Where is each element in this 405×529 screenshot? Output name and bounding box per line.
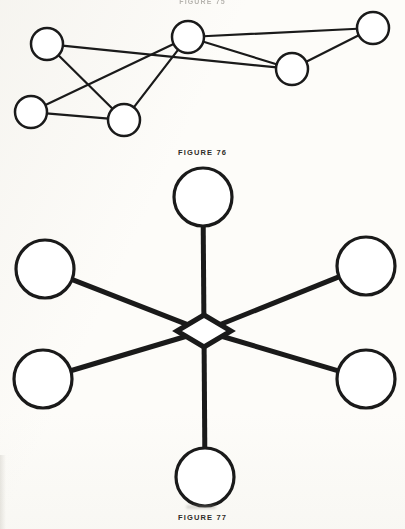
lower-left-node [14, 350, 72, 408]
center-diamond-hub [177, 315, 231, 347]
upper-right-node [357, 12, 389, 44]
upper-left-node [31, 28, 63, 60]
hub-spoke [71, 279, 189, 325]
graph-edge [46, 113, 108, 118]
scanned-page: FIGURE 75 FIGURE 76 FIGURE 77 [0, 0, 405, 529]
graph-edge [62, 46, 276, 68]
figure-76-graph [0, 0, 405, 148]
upper-left-node [16, 240, 74, 298]
lower-right-node [337, 350, 395, 408]
lower-center-node [108, 104, 140, 136]
hub-spoke [203, 225, 204, 316]
hub-spoke [70, 336, 187, 371]
mid-right-node [276, 53, 308, 85]
figure-77-hub-group [177, 315, 231, 347]
graph-edge [203, 29, 357, 37]
top-node [174, 168, 232, 226]
hub-spoke [204, 346, 205, 449]
upper-right-node [337, 237, 395, 295]
graph-edge [306, 35, 360, 62]
hub-spoke [221, 336, 339, 371]
bottom-node [176, 448, 234, 506]
figure-76: FIGURE 76 [0, 0, 405, 163]
figure-77-graph [0, 163, 405, 513]
figure-77 [0, 163, 405, 529]
graph-edge [58, 55, 113, 109]
graph-edge [45, 44, 174, 106]
figure-77-caption: FIGURE 77 [0, 513, 405, 522]
hub-spoke [219, 276, 340, 325]
lower-left-node [15, 96, 47, 128]
graph-edge [133, 49, 178, 108]
upper-center-node [172, 21, 204, 53]
figure-76-caption: FIGURE 76 [0, 148, 405, 157]
